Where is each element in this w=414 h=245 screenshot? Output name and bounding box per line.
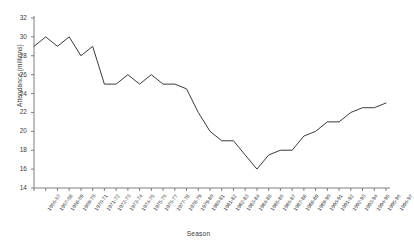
y-tick-label: 30 bbox=[11, 33, 27, 40]
y-tick-label: 18 bbox=[11, 146, 27, 153]
y-tick-label: 26 bbox=[11, 71, 27, 78]
attendance-series-line bbox=[34, 37, 386, 169]
axis-lines bbox=[34, 16, 390, 188]
y-tick-label: 28 bbox=[11, 52, 27, 59]
y-tick-label: 14 bbox=[11, 184, 27, 191]
y-tick-label: 22 bbox=[11, 108, 27, 115]
y-tick-label: 20 bbox=[11, 127, 27, 134]
y-tick-label: 16 bbox=[11, 165, 27, 172]
y-tick-label: 32 bbox=[11, 14, 27, 21]
y-tick-label: 24 bbox=[11, 90, 27, 97]
